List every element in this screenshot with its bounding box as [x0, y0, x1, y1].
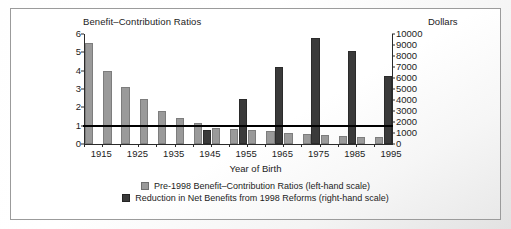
y-axis-right-tick-mark: [392, 122, 395, 123]
y-axis-left-tick-mark: [81, 107, 84, 108]
x-axis-tick-mark: [283, 144, 284, 147]
x-axis-tick-label-1915: 1915: [91, 148, 112, 159]
chart-figure: Benefit–Contribution Ratios Dollars 0123…: [0, 0, 511, 229]
legend-item-1[interactable]: Pre-1998 Benefit–Contribution Ratios (le…: [141, 181, 370, 191]
reference-line: [83, 125, 393, 127]
x-axis-tick-mark: [356, 144, 357, 147]
right-axis-line: [392, 34, 393, 145]
y-axis-right-tick-mark: [392, 100, 395, 101]
x-axis-tick-label-1985: 1985: [344, 148, 365, 159]
y-axis-right-tick-label: 8000: [396, 51, 417, 61]
x-axis-tick-label-1975: 1975: [308, 148, 329, 159]
x-axis-tick-mark: [120, 144, 121, 147]
bar-pre1998-ratio-1980: [321, 135, 329, 144]
x-axis-tick-label-1925: 1925: [127, 148, 148, 159]
bar-pre1998-ratio-1915: [85, 43, 93, 144]
y-axis-right-tick-label: 3000: [396, 106, 417, 116]
legend-item-2[interactable]: Reduction in Net Benefits from 1998 Refo…: [122, 193, 389, 203]
x-axis-tick-label-1955: 1955: [236, 148, 257, 159]
bar-pre1998-ratio-1995: [375, 137, 383, 144]
x-axis-tick-mark: [229, 144, 230, 147]
legend-label-2: Reduction in Net Benefits from 1998 Refo…: [135, 193, 389, 203]
x-axis-tick-mark: [320, 144, 321, 147]
y-axis-right-tick-label: 5000: [396, 84, 417, 94]
x-axis-tick-mark: [138, 144, 139, 147]
y-axis-right-tick-mark: [392, 133, 395, 134]
x-axis-tick-mark: [247, 144, 248, 147]
y-axis-left-tick-mark: [81, 70, 84, 71]
x-axis-tick-mark: [301, 144, 302, 147]
x-axis-tick-label-1945: 1945: [199, 148, 220, 159]
y-axis-right-tick-label: 4000: [396, 95, 417, 105]
bar-net-benefit-reduction-1955: [239, 99, 247, 144]
x-axis-tick-mark: [175, 144, 176, 147]
x-axis-line: [84, 144, 393, 145]
bar-pre1998-ratio-1960: [248, 130, 256, 144]
y-axis-right-tick-mark: [392, 111, 395, 112]
y-axis-right-tick-mark: [392, 45, 395, 46]
plot-area: 0123456010002000300040005000600070008000…: [84, 34, 392, 144]
y-axis-right-tick-mark: [392, 78, 395, 79]
bar-pre1998-ratio-1975: [303, 134, 311, 144]
bar-pre1998-ratio-1920: [103, 71, 111, 144]
left-axis-title: Benefit–Contribution Ratios: [83, 16, 201, 27]
x-axis-tick-label-1995: 1995: [381, 148, 402, 159]
x-axis-tick-mark: [211, 144, 212, 147]
bar-pre1998-ratio-1970: [284, 133, 292, 144]
bar-net-benefit-reduction-1965: [275, 67, 283, 144]
y-axis-right-tick-label: 9000: [396, 40, 417, 50]
y-axis-left-tick-mark: [81, 34, 84, 35]
x-axis-tick-mark: [102, 144, 103, 147]
y-axis-right-tick-mark: [392, 56, 395, 57]
x-axis-tick-mark: [193, 144, 194, 147]
bar-net-benefit-reduction-1995: [384, 76, 392, 144]
legend-label-1: Pre-1998 Benefit–Contribution Ratios (le…: [154, 181, 370, 191]
chart-legend: Pre-1998 Benefit–Contribution Ratios (le…: [0, 181, 511, 203]
x-axis-tick-mark: [84, 144, 85, 147]
bar-pre1998-ratio-1965: [266, 131, 274, 144]
bar-net-benefit-reduction-1985: [348, 51, 356, 145]
bar-net-benefit-reduction-1945: [203, 130, 211, 144]
y-axis-right-tick-label: 6000: [396, 73, 417, 83]
y-axis-left-tick-mark: [81, 52, 84, 53]
y-axis-right-tick-mark: [392, 34, 395, 35]
bar-net-benefit-reduction-1975: [311, 38, 319, 144]
y-axis-right-tick-label: 2000: [396, 117, 417, 127]
bar-pre1998-ratio-1930: [140, 99, 148, 144]
bar-pre1998-ratio-1940: [176, 118, 184, 144]
x-axis-tick-mark: [338, 144, 339, 147]
legend-swatch-light: [141, 182, 149, 190]
y-axis-right-tick-mark: [392, 144, 395, 145]
x-axis-tick-label-1965: 1965: [272, 148, 293, 159]
x-axis-tick-mark: [374, 144, 375, 147]
y-axis-right-tick-mark: [392, 89, 395, 90]
x-axis-title: Year of Birth: [0, 163, 511, 174]
x-axis-tick-mark: [265, 144, 266, 147]
y-axis-left-tick-mark: [81, 89, 84, 90]
y-axis-right-tick-mark: [392, 67, 395, 68]
bar-pre1998-ratio-1955: [230, 129, 238, 144]
bar-pre1998-ratio-1925: [121, 87, 129, 144]
bar-pre1998-ratio-1950: [212, 128, 220, 144]
legend-swatch-dark: [122, 194, 130, 202]
right-axis-title: Dollars: [428, 16, 458, 27]
x-axis-tick-label-1935: 1935: [163, 148, 184, 159]
y-axis-right-tick-label: 1000: [396, 128, 417, 138]
y-axis-right-tick-label: 10000: [396, 29, 422, 39]
bar-pre1998-ratio-1985: [339, 136, 347, 144]
y-axis-right-tick-label: 7000: [396, 62, 417, 72]
x-axis-tick-mark: [156, 144, 157, 147]
bar-pre1998-ratio-1935: [158, 111, 166, 144]
bar-pre1998-ratio-1990: [357, 137, 365, 144]
